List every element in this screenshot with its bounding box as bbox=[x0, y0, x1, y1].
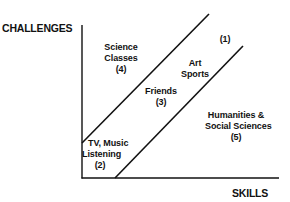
region-friends: Friends (3) bbox=[143, 86, 179, 108]
y-axis-label: CHALLENGES bbox=[2, 22, 72, 34]
region-number: (4) bbox=[101, 64, 141, 75]
region-number: (3) bbox=[143, 97, 179, 108]
region-label-line: Classes bbox=[101, 53, 141, 64]
region-label-line: Humanities & bbox=[205, 110, 267, 121]
region-humanities-social-sciences: Humanities & Social Sciences (5) bbox=[205, 110, 267, 143]
flow-channel-diagram: CHALLENGES SKILLS Science Classes (4) Ar… bbox=[0, 0, 290, 202]
region-tv-music-listening-line2: Listening bbox=[82, 149, 121, 160]
region-number-2: (2) bbox=[93, 160, 107, 171]
region-label-line: Art bbox=[177, 58, 213, 69]
region-label-line: Social Sciences bbox=[205, 121, 267, 132]
region-tv-music-listening-line1: TV, Music bbox=[88, 138, 128, 149]
region-number: (5) bbox=[205, 132, 267, 143]
region-label-line: Friends bbox=[143, 86, 179, 97]
x-axis-label: SKILLS bbox=[232, 187, 268, 199]
region-number-1: (1) bbox=[217, 34, 233, 45]
region-art-sports: Art Sports bbox=[177, 58, 213, 80]
region-label-line: Science bbox=[101, 42, 141, 53]
region-science-classes: Science Classes (4) bbox=[101, 42, 141, 75]
region-label-line: Sports bbox=[177, 69, 213, 80]
